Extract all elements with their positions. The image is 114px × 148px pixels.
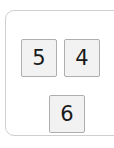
number-tile-label: 6 [60,104,73,125]
number-tile-label: 4 [75,48,88,69]
screenshot-root: 5 4 6 [0,0,114,148]
number-tile[interactable]: 6 [49,95,85,133]
number-tile-panel: 5 4 6 [5,10,114,136]
number-tile[interactable]: 5 [21,39,57,77]
number-tile-label: 5 [32,48,45,69]
number-tile[interactable]: 4 [64,39,100,77]
